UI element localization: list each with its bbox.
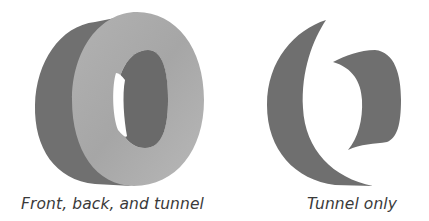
inner-tunnel-piece-shape (333, 50, 401, 150)
figure-front-back-tunnel: Front, back, and tunnel (0, 0, 215, 221)
figure-tunnel-only: Tunnel only (215, 0, 429, 221)
outer-tunnel-crescent-shape (267, 20, 373, 186)
extruded-o-tunnel-illustration (215, 0, 429, 221)
caption-front-back-tunnel: Front, back, and tunnel (21, 195, 204, 213)
caption-tunnel-only: Tunnel only (307, 195, 397, 213)
extruded-o-full-illustration (0, 0, 215, 221)
